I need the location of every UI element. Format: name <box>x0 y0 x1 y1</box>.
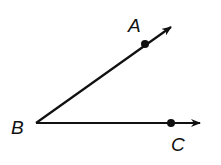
label-c: C <box>171 134 185 155</box>
angle-diagram: A B C <box>0 0 221 165</box>
label-b: B <box>11 117 24 138</box>
label-a: A <box>127 15 141 36</box>
point-a-dot <box>141 40 149 48</box>
point-c-dot <box>167 119 175 127</box>
ray-ba <box>36 27 171 123</box>
